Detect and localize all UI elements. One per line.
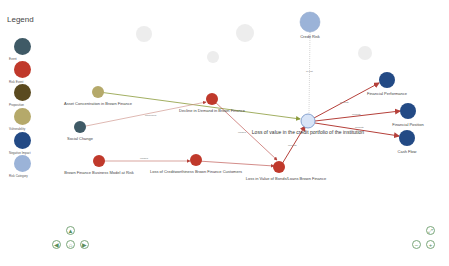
node-label: Decline in Demand in Brown Finance [179,108,246,113]
faded-background-nodes [136,24,372,63]
arrow-right-icon: ▶ [82,242,87,248]
edge-label: is part [306,70,313,73]
node-label: Cash Flow [398,149,417,154]
node-label: Credit Risk [300,34,320,39]
fit-icon: ⤢ [428,228,433,234]
node-asset-concentration[interactable]: Asset Concentration in Brown Finance [64,86,133,106]
faded-node [236,24,254,42]
node-label: Financial Performance [367,91,408,96]
node-credit-risk[interactable]: Credit Risk [300,12,320,39]
zoom-out-button[interactable]: − [412,240,421,249]
arrow-left-icon: ◀ [54,242,59,248]
edge-label: causes [238,131,247,134]
node-loss-bonds-loans[interactable]: Loss in Value of Bonds/Loans Brown Finan… [246,161,327,181]
edge-creditworthiness-to-bonds [198,161,274,166]
node-label: Loss of Creditworthiness Brown Finance C… [150,169,242,174]
node-loss-creditworthiness[interactable]: Loss of Creditworthiness Brown Finance C… [150,154,242,174]
pan-right-button[interactable]: ▶ [80,240,89,249]
fit-view-button[interactable]: ⤢ [426,226,435,235]
node-business-model-risk[interactable]: Brown Finance Business Model at Risk [64,155,133,175]
node-label: Brown Finance Business Model at Risk [64,170,133,175]
faded-node [358,46,372,60]
faded-node [136,26,152,42]
node-label: Loss in Value of Bonds/Loans Brown Finan… [246,176,327,181]
node-social-change[interactable]: Social Change [67,121,94,141]
node-label: Financial Position [392,122,423,127]
zoom-out-icon: − [415,242,419,248]
edge-label: impacts [352,113,361,116]
zoom-in-button[interactable]: + [426,240,435,249]
edge-label: impacts [288,144,297,147]
pan-left-button[interactable]: ◀ [52,240,61,249]
node-financial-position[interactable]: Financial Position [392,103,423,127]
node-label: Asset Concentration in Brown Finance [64,101,133,106]
node-label: Loss of value in the credit portfolio of… [252,129,365,135]
edge-label: causes [140,157,149,160]
edge-label: impacts [340,101,349,104]
home-icon: ⌂ [69,242,73,248]
node-cash-flow[interactable]: Cash Flow [398,130,417,154]
pan-up-button[interactable]: ▲ [66,226,75,235]
pan-down-button[interactable]: ⌂ [66,240,75,249]
node-label: Social Change [67,136,94,141]
zoom-in-icon: + [429,242,433,248]
edge-label: influences [145,114,157,117]
edge-is-part [309,32,310,114]
node-decline-demand[interactable]: Decline in Demand in Brown Finance [179,93,246,113]
node-financial-performance[interactable]: Financial Performance [367,72,408,96]
edges: is part influences causes causes impacts… [81,32,400,166]
faded-node [207,51,219,63]
arrow-up-icon: ▲ [68,228,74,234]
